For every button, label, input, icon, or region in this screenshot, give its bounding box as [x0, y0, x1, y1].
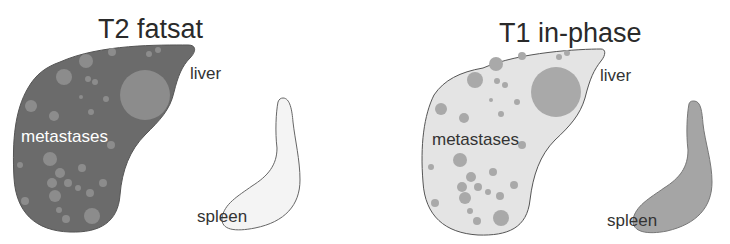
liver-label: liver — [600, 66, 632, 85]
panel-t2-fatsat: T2 fatsat — [13, 14, 300, 232]
spleen-label: spleen — [197, 207, 247, 226]
panel-title: T2 fatsat — [98, 14, 204, 44]
panel-t1-in-phase: T1 in-phase — [422, 18, 712, 235]
metastases-label: metastases — [21, 127, 108, 146]
panel-title: T1 in-phase — [499, 18, 642, 48]
diagram-canvas: T2 fatsat — [0, 0, 730, 244]
liver-label: liver — [190, 64, 222, 83]
spleen-label: spleen — [607, 211, 657, 230]
metastases-label: metastases — [432, 130, 519, 149]
